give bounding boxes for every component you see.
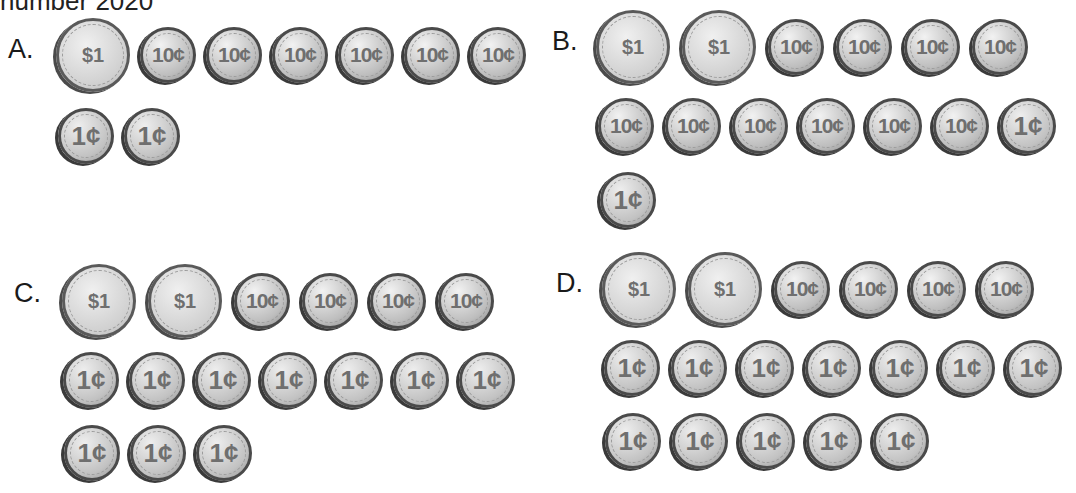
one-cent-coin-icon: 1¢ [605,413,661,469]
one-cent-coin-icon: 1¢ [872,340,928,396]
ten-cent-coin-icon: 10¢ [272,27,328,83]
ten-cent-coin-icon: 10¢ [234,273,290,329]
one-cent-coin-icon: 1¢ [671,340,727,396]
ten-cent-coin-icon: 10¢ [370,273,426,329]
coin-row: 1¢1¢1¢1¢1¢1¢1¢ [63,352,515,408]
ten-cent-coin-icon: 10¢ [910,261,966,317]
option-label: A. [8,34,34,65]
coin-row: $110¢10¢10¢10¢10¢10¢ [56,18,526,92]
coin-row: 10¢10¢10¢10¢10¢10¢1¢ [598,98,1056,154]
option-label: D. [556,268,583,299]
one-cent-coin-icon: 1¢ [327,352,383,408]
dollar-coin-icon: $1 [62,264,136,338]
dollar-coin-icon: $1 [682,10,756,84]
ten-cent-coin-icon: 10¢ [338,27,394,83]
one-cent-coin-icon: 1¢ [196,425,252,481]
coin-row: 1¢1¢1¢ [64,425,252,481]
option-label: B. [552,26,578,57]
one-cent-coin-icon: 1¢ [939,340,995,396]
one-cent-coin-icon: 1¢ [805,340,861,396]
one-cent-coin-icon: 1¢ [58,108,114,164]
one-cent-coin-icon: 1¢ [64,425,120,481]
ten-cent-coin-icon: 10¢ [972,19,1028,75]
ten-cent-coin-icon: 10¢ [774,261,830,317]
ten-cent-coin-icon: 10¢ [904,19,960,75]
one-cent-coin-icon: 1¢ [129,352,185,408]
dollar-coin-icon: $1 [56,18,130,92]
one-cent-coin-icon: 1¢ [600,172,656,228]
one-cent-coin-icon: 1¢ [124,108,180,164]
ten-cent-coin-icon: 10¢ [302,273,358,329]
ten-cent-coin-icon: 10¢ [404,27,460,83]
one-cent-coin-icon: 1¢ [195,352,251,408]
dollar-coin-icon: $1 [148,264,222,338]
ten-cent-coin-icon: 10¢ [978,261,1034,317]
ten-cent-coin-icon: 10¢ [732,98,788,154]
one-cent-coin-icon: 1¢ [739,413,795,469]
one-cent-coin-icon: 1¢ [393,352,449,408]
one-cent-coin-icon: 1¢ [604,340,660,396]
one-cent-coin-icon: 1¢ [873,413,929,469]
coin-row: $1$110¢10¢10¢10¢ [602,252,1034,326]
question-text-fragment: number 2020 [0,0,153,17]
one-cent-coin-icon: 1¢ [738,340,794,396]
ten-cent-coin-icon: 10¢ [598,98,654,154]
ten-cent-coin-icon: 10¢ [768,19,824,75]
ten-cent-coin-icon: 10¢ [799,98,855,154]
coin-row: 1¢ [600,172,656,228]
coin-row: $1$110¢10¢10¢10¢ [596,10,1028,84]
one-cent-coin-icon: 1¢ [261,352,317,408]
ten-cent-coin-icon: 10¢ [836,19,892,75]
coin-row: 1¢1¢1¢1¢1¢1¢1¢ [604,340,1062,396]
ten-cent-coin-icon: 10¢ [438,273,494,329]
ten-cent-coin-icon: 10¢ [470,27,526,83]
one-cent-coin-icon: 1¢ [63,352,119,408]
coin-row: $1$110¢10¢10¢10¢ [62,264,494,338]
dollar-coin-icon: $1 [596,10,670,84]
ten-cent-coin-icon: 10¢ [842,261,898,317]
ten-cent-coin-icon: 10¢ [140,27,196,83]
coin-row: 1¢1¢1¢1¢1¢ [605,413,929,469]
one-cent-coin-icon: 1¢ [1000,98,1056,154]
one-cent-coin-icon: 1¢ [1006,340,1062,396]
one-cent-coin-icon: 1¢ [130,425,186,481]
option-label: C. [14,278,41,309]
one-cent-coin-icon: 1¢ [672,413,728,469]
ten-cent-coin-icon: 10¢ [206,27,262,83]
one-cent-coin-icon: 1¢ [459,352,515,408]
one-cent-coin-icon: 1¢ [806,413,862,469]
ten-cent-coin-icon: 10¢ [665,98,721,154]
dollar-coin-icon: $1 [602,252,676,326]
dollar-coin-icon: $1 [688,252,762,326]
ten-cent-coin-icon: 10¢ [933,98,989,154]
ten-cent-coin-icon: 10¢ [866,98,922,154]
coin-row: 1¢1¢ [58,108,180,164]
